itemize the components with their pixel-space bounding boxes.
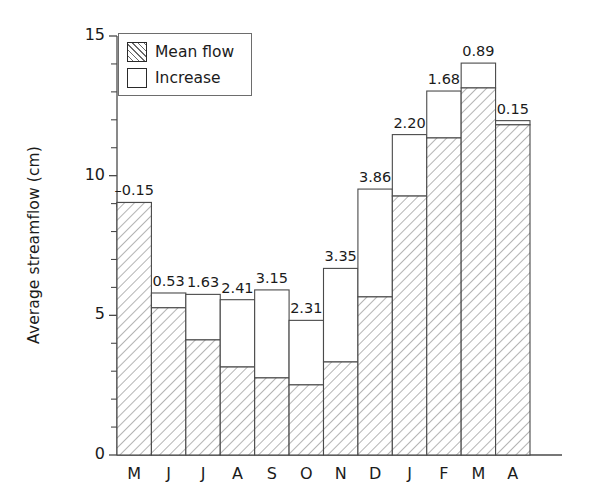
legend-swatch-increase	[127, 68, 147, 88]
plot-area	[0, 0, 596, 504]
bar-value-label: 3.15	[242, 270, 302, 286]
bar-value-label: 3.86	[345, 169, 405, 185]
bar-value-label: 3.35	[311, 248, 371, 264]
bar-segment-mean-flow	[324, 362, 358, 455]
x-tick-label: A	[493, 464, 533, 483]
bar-segment-mean-flow	[255, 378, 289, 455]
y-tick-label: 0	[65, 444, 105, 463]
bar-value-label: –0.15	[104, 182, 164, 198]
bar-segment-increase	[358, 189, 392, 297]
legend-item-increase: Increase	[127, 65, 243, 91]
bar-value-label: 1.68	[414, 71, 474, 87]
bar-segment-mean-flow	[358, 297, 392, 455]
bar-segment-increase	[289, 320, 323, 385]
bar-segment-increase	[496, 121, 530, 125]
bar-segment-mean-flow	[151, 308, 185, 455]
bar-segment-increase	[186, 294, 220, 340]
bar-segment-mean-flow	[289, 385, 323, 455]
bar-segment-mean-flow	[186, 340, 220, 455]
bar-value-label: 2.31	[276, 300, 336, 316]
bar-value-label: 0.89	[448, 43, 508, 59]
legend-label-mean-flow: Mean flow	[155, 43, 234, 61]
bar-segment-increase	[220, 300, 254, 367]
bar-segment-mean-flow	[220, 367, 254, 455]
y-tick-label: 5	[65, 304, 105, 323]
legend-swatch-mean-flow	[127, 42, 147, 62]
y-tick-label: 10	[65, 165, 105, 184]
bar-value-label: 0.15	[483, 101, 543, 117]
chart-legend: Mean flow Increase	[118, 33, 252, 96]
streamflow-bar-chart: Average streamflow (cm) Mean flow Increa…	[0, 0, 596, 504]
bar-segment-increase	[151, 293, 185, 308]
legend-label-increase: Increase	[155, 69, 221, 87]
bar-segment-mean-flow	[427, 138, 461, 455]
bar-segment-mean-flow	[461, 88, 495, 455]
bar-segment-mean-flow	[496, 125, 530, 455]
bar-segment-increase	[392, 135, 426, 196]
bar-value-label: 2.20	[380, 115, 440, 131]
bar-segment-mean-flow	[392, 196, 426, 455]
legend-item-mean-flow: Mean flow	[127, 39, 243, 65]
y-axis-ticks	[109, 36, 117, 455]
bar-segment-mean-flow	[117, 202, 151, 455]
y-tick-label: 15	[65, 25, 105, 44]
